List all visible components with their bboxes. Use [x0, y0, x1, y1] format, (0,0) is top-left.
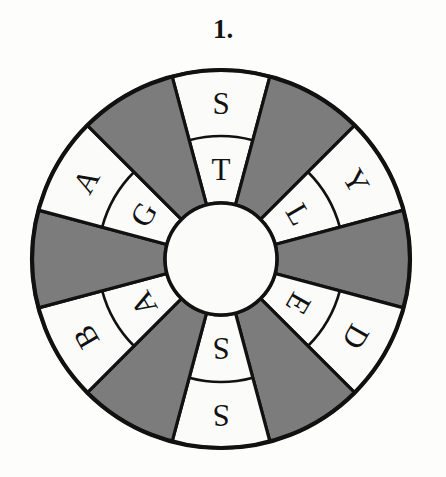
- letter-wheel-diagram: STYLDESSBAAG: [0, 0, 446, 477]
- wheel-center-hub: [165, 203, 277, 315]
- wheel-letter-inner-bottom: S: [212, 331, 229, 366]
- wheel-letter-outer-top: S: [212, 86, 229, 121]
- wheel-letter-outer-bottom: S: [212, 398, 229, 433]
- wheel-letter-inner-top: T: [212, 152, 231, 187]
- puzzle-page: 1. STYLDESSBAAG: [0, 0, 446, 477]
